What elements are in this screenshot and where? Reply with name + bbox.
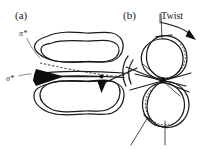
pi-star-label: π* — [19, 29, 27, 38]
figure-canvas: (a) — [0, 0, 211, 149]
panel-b-label: (b) — [123, 9, 136, 22]
crossing-node-dot — [160, 77, 165, 82]
panel-a-label: (a) — [15, 9, 28, 22]
twist-label: Twist — [161, 10, 183, 21]
arrow-node-dot — [99, 74, 103, 78]
scientific-figure-svg: (a) — [0, 0, 211, 149]
sigma-star-label: σ* — [6, 74, 14, 83]
